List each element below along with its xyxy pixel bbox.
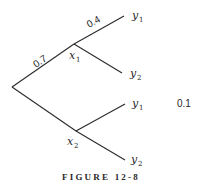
edge-label-x2-y1: 0.1 <box>177 98 191 109</box>
leaf-x2-y1-base: y <box>131 97 139 110</box>
leaf-x1-y1-label: y 1 <box>131 9 143 24</box>
leaf-x2-y2-label: y 2 <box>130 153 142 168</box>
figure-caption: FIGURE 12-8 <box>62 172 140 182</box>
leaf-x2-y2-sub: 2 <box>138 160 142 168</box>
node-x2-sub: 2 <box>74 142 78 150</box>
node-x1-sub: 1 <box>76 56 80 64</box>
leaf-x2-y1-sub: 1 <box>139 104 143 112</box>
leaf-x2-y2-base: y <box>130 153 138 166</box>
edge-x2-y1 <box>76 104 125 131</box>
leaf-x1-y1-sub: 1 <box>139 16 143 24</box>
edge-x1-y2 <box>74 44 122 73</box>
node-x1-label: x 1 <box>69 49 80 64</box>
edge-label-root-x1: 0.7 <box>31 53 49 70</box>
leaf-x2-y1-label: y 1 <box>131 97 143 112</box>
leaf-x1-y1-base: y <box>131 9 139 22</box>
edge-x2-y2 <box>76 131 125 160</box>
node-x2-base: x <box>67 135 74 148</box>
node-x2-label: x 2 <box>67 135 78 150</box>
edge-root-x2 <box>12 87 76 131</box>
probability-tree-diagram: 0.7 0.4 0.1 x 1 x 2 y 1 y 2 y 1 y 2 FIGU… <box>0 0 208 191</box>
edge-label-x1-y1: 0.4 <box>85 13 103 30</box>
leaf-x1-y2-label: y 2 <box>129 67 141 82</box>
node-x1-base: x <box>69 49 76 62</box>
leaf-x1-y2-base: y <box>129 67 137 80</box>
leaf-x1-y2-sub: 2 <box>137 74 141 82</box>
